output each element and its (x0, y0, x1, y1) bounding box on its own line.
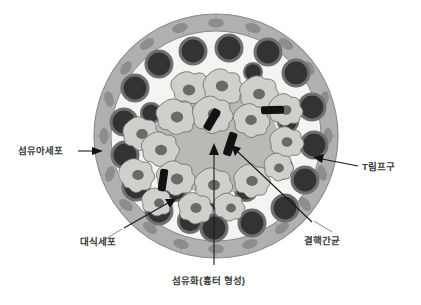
label-macrophage: 대식세포 (80, 236, 116, 247)
granuloma-diagram: 섬유아세포 T림프구 대식세포 결핵간균 섬유화(흉터 형성) (0, 0, 421, 305)
label-t-lymphocyte: T림프구 (362, 161, 395, 172)
bacillus-rod (261, 106, 284, 115)
granuloma-figure: 섬유아세포 T림프구 대식세포 결핵간균 섬유화(흉터 형성) (0, 0, 421, 305)
label-fibrosis: 섬유화(흉터 형성) (172, 275, 245, 286)
label-tubercle-bacillus: 결핵간균 (304, 235, 340, 246)
label-fibroblast: 섬유아세포 (18, 145, 64, 156)
